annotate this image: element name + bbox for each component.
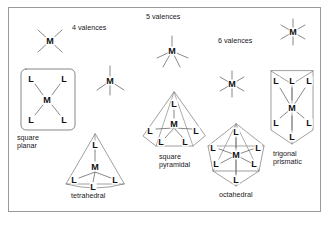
square-planar-center-atom: M: [43, 96, 52, 105]
valence-heading-4: 4 valences: [72, 24, 106, 32]
trigonal-prismatic-center-atom: M: [288, 104, 297, 113]
structure-label-square-pyramidal: square pyramidal: [159, 153, 190, 169]
valence-icon-4-tripod-atom: M: [106, 77, 115, 86]
structure-label-trigonal-prismatic: trigonal prismatic: [273, 150, 302, 166]
trigonal-prismatic-ligand: L: [306, 77, 313, 86]
valence-icon-6-star-a-atom: M: [228, 80, 237, 89]
square-pyramidal-ligand: L: [158, 138, 165, 147]
structure-label-octahedral: octahedral: [219, 191, 253, 199]
trigonal-prismatic-ligand: L: [289, 77, 296, 86]
square-pyramidal-ligand: L: [193, 127, 200, 136]
octahedral-center-atom: M: [232, 151, 241, 160]
valence-heading-6: 6 valences: [218, 37, 252, 45]
valence-icon-5-atom: M: [168, 47, 177, 56]
square-planar-ligand: L: [61, 116, 68, 125]
tetrahedral-ligand: L: [92, 141, 99, 150]
valence-icon-6-star-b-atom: M: [289, 28, 298, 37]
octahedral-ligand: L: [233, 176, 240, 185]
trigonal-prismatic-ligand: L: [289, 133, 296, 142]
structure-label-tetrahedral: tetrahedral: [71, 192, 105, 200]
tetrahedral-ligand: L: [112, 176, 119, 185]
octahedral-ligand: L: [213, 160, 220, 169]
square-planar-ligand: L: [61, 75, 68, 84]
trigonal-prismatic-ligand: L: [273, 119, 280, 128]
square-pyramidal-ligand: L: [171, 100, 178, 109]
coordination-geometry-figure: 4 valences 5 valences 6 valences M M M M…: [0, 0, 332, 228]
trigonal-prismatic-ligand: L: [306, 119, 313, 128]
square-planar-ligand: L: [28, 75, 35, 84]
tetrahedral-center-atom: M: [91, 163, 100, 172]
valence-heading-5: 5 valences: [146, 13, 180, 21]
valence-icon-4-cross-atom: M: [46, 37, 55, 46]
octahedral-ligand: L: [210, 144, 217, 153]
square-pyramidal-ligand: L: [147, 127, 154, 136]
octahedral-ligand: L: [251, 160, 258, 169]
tetrahedral-ligand: L: [71, 176, 78, 185]
trigonal-prismatic-ligand: L: [273, 77, 280, 86]
octahedral-ligand: L: [255, 144, 262, 153]
figure-line-art: [0, 0, 332, 228]
square-planar-ligand: L: [28, 116, 35, 125]
square-pyramidal-ligand: L: [182, 138, 189, 147]
square-pyramidal-center-atom: M: [170, 120, 179, 129]
octahedral-ligand: L: [233, 128, 240, 137]
structure-label-square-planar: square planar: [17, 134, 39, 150]
